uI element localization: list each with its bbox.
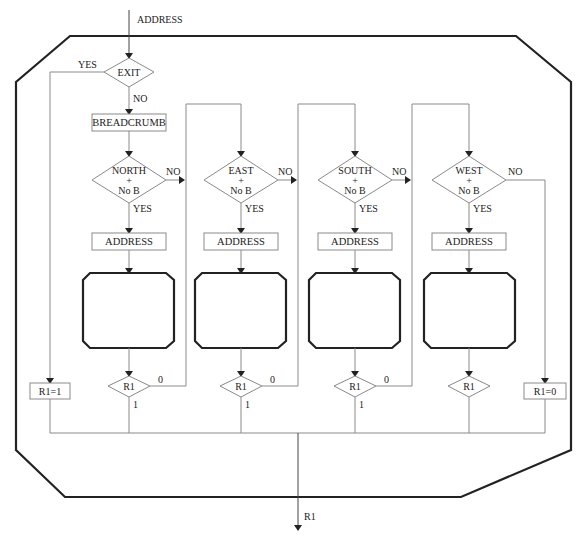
svg-text:No B: No B — [118, 185, 140, 196]
svg-text:0: 0 — [384, 374, 389, 385]
south-process-block — [309, 273, 400, 348]
svg-text:NO: NO — [508, 166, 522, 177]
svg-text:ADDRESS: ADDRESS — [105, 236, 153, 247]
r1-set-1-label: R1=1 — [39, 386, 61, 397]
svg-text:ADDRESS: ADDRESS — [445, 236, 493, 247]
r1-set-0-label: R1=0 — [534, 386, 556, 397]
svg-text:R1: R1 — [349, 381, 361, 392]
exit-label: EXIT — [118, 67, 141, 78]
column-east: EAST + No B NO YES ADDRESS R1 0 1 — [195, 104, 355, 433]
svg-text:R1: R1 — [235, 381, 247, 392]
west-process-block — [424, 273, 515, 348]
svg-text:NO: NO — [392, 166, 406, 177]
exit-yes-label: YES — [78, 59, 97, 70]
svg-text:No B: No B — [230, 185, 252, 196]
svg-text:YES: YES — [359, 203, 378, 214]
svg-text:NO: NO — [166, 166, 180, 177]
column-south: SOUTH + No B NO YES ADDRESS R1 0 1 — [309, 104, 469, 433]
svg-text:No B: No B — [344, 185, 366, 196]
svg-text:R1: R1 — [463, 381, 475, 392]
north-process-block — [83, 273, 174, 348]
svg-text:ADDRESS: ADDRESS — [217, 236, 265, 247]
output-label: R1 — [304, 511, 316, 522]
svg-text:YES: YES — [133, 203, 152, 214]
outer-boundary — [16, 36, 571, 497]
svg-text:1: 1 — [245, 399, 250, 410]
svg-text:YES: YES — [473, 203, 492, 214]
svg-text:No B: No B — [458, 185, 480, 196]
svg-text:NO: NO — [278, 166, 292, 177]
east-process-block — [195, 273, 286, 348]
svg-text:1: 1 — [133, 399, 138, 410]
svg-text:YES: YES — [245, 203, 264, 214]
flowchart-canvas: ADDRESS EXIT YES NO BREADCRUMB R1=1 NORT… — [0, 0, 586, 544]
svg-text:0: 0 — [270, 374, 275, 385]
breadcrumb-label: BREADCRUMB — [92, 117, 166, 128]
svg-text:ADDRESS: ADDRESS — [331, 236, 379, 247]
svg-text:0: 0 — [158, 374, 163, 385]
column-north: NORTH + No B NO YES ADDRESS R1 0 1 — [83, 104, 241, 433]
exit-no-label: NO — [133, 93, 147, 104]
input-label: ADDRESS — [137, 14, 183, 25]
svg-text:1: 1 — [359, 399, 364, 410]
svg-text:R1: R1 — [123, 381, 135, 392]
